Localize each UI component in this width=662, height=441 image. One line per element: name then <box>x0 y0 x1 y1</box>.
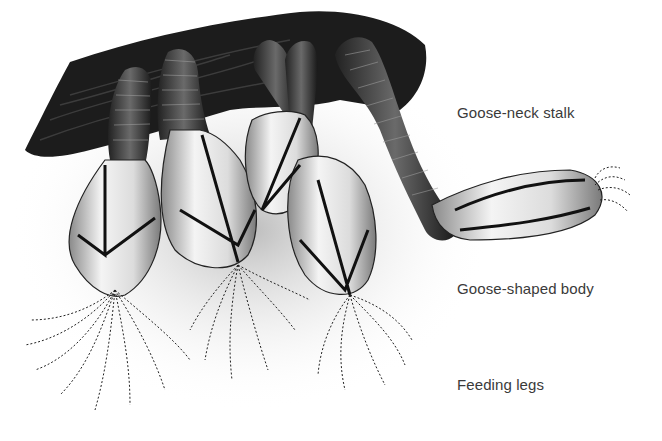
label-feeding-legs: Feeding legs <box>457 376 544 393</box>
label-goose-neck-stalk: Goose-neck stalk <box>457 104 574 121</box>
barnacle-illustration <box>0 0 662 441</box>
label-goose-shaped-body: Goose-shaped body <box>457 280 594 297</box>
